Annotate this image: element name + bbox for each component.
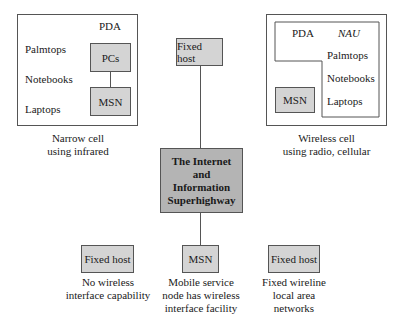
- nau-label: NAU: [338, 27, 360, 39]
- caption-line: local area: [248, 289, 340, 302]
- bottom-fixed-host-left: Fixed host: [81, 245, 134, 273]
- caption-line: Mobile service: [155, 276, 247, 289]
- bottom-middle-caption: Mobile service node has wireless interfa…: [155, 276, 247, 315]
- top-fixed-host-node: Fixed host: [176, 38, 223, 66]
- internet-line: Superhighway: [168, 194, 236, 207]
- caption-line: node has wireless: [155, 289, 247, 302]
- wireless-msn-node: MSN: [275, 87, 315, 113]
- caption-line: No wireless: [62, 276, 154, 289]
- caption-line: networks: [248, 302, 340, 315]
- wireless-notebooks-label: Notebooks: [327, 72, 375, 84]
- internet-msn-connector: [200, 213, 201, 245]
- wireless-palmtops-label: Palmtops: [327, 49, 368, 61]
- wireless-laptops-label: Laptops: [327, 95, 362, 107]
- wireless-pda-label: PDA: [292, 27, 314, 39]
- bottom-left-caption: No wireless interface capability: [62, 276, 154, 302]
- wireless-cell-caption: Wireless cell using radio, cellular: [266, 132, 387, 158]
- internet-node: The Internet and Information Superhighwa…: [160, 148, 243, 213]
- caption-line: Fixed wireline: [248, 276, 340, 289]
- internet-line: and: [193, 168, 211, 181]
- caption-line: interface facility: [155, 302, 247, 315]
- bottom-right-caption: Fixed wireline local area networks: [248, 276, 340, 315]
- caption-line: interface capability: [62, 289, 154, 302]
- bottom-msn-node: MSN: [182, 245, 219, 273]
- bottom-fixed-host-right: Fixed host: [268, 245, 320, 273]
- caption-line: using radio, cellular: [266, 145, 387, 158]
- fixedhost-internet-connector: [200, 66, 201, 148]
- caption-line: Wireless cell: [266, 132, 387, 145]
- internet-line: Information: [173, 181, 230, 194]
- internet-line: The Internet: [172, 155, 232, 168]
